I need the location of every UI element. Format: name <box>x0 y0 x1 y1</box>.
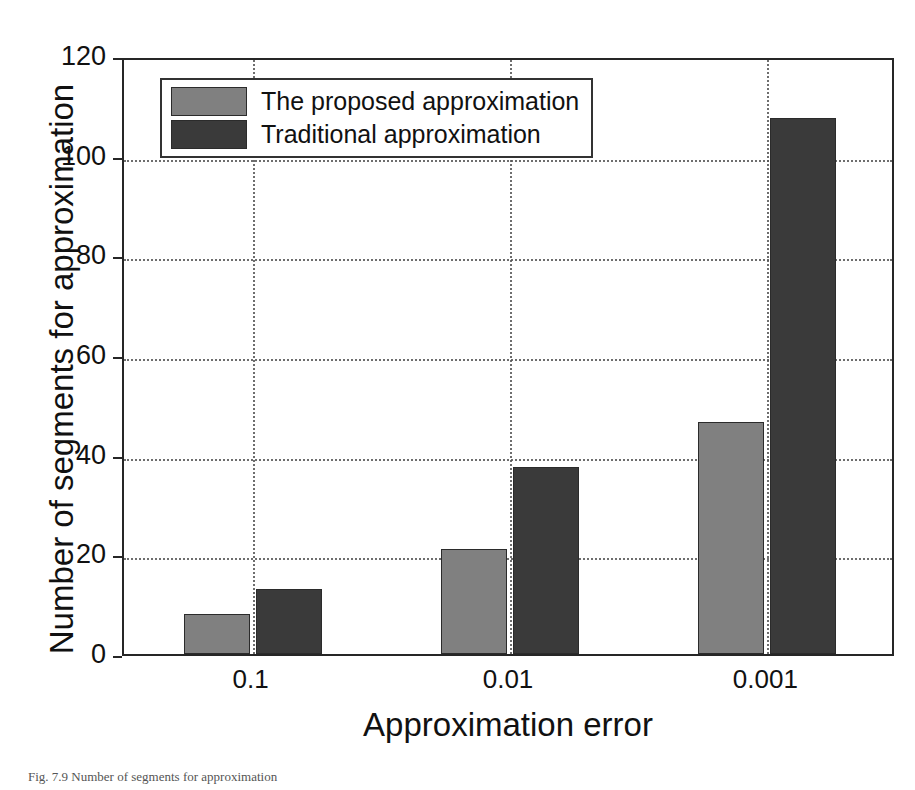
legend-swatch-proposed <box>171 87 247 116</box>
x-tick-label-0.01: 0.01 <box>483 664 534 695</box>
bar-traditional-0.01 <box>513 467 579 654</box>
bar-proposed-0.1 <box>184 614 250 654</box>
x-tick-label-0.001: 0.001 <box>733 664 798 695</box>
legend-swatch-traditional <box>171 120 247 149</box>
y-tick-mark-20 <box>113 556 122 558</box>
bar-proposed-0.001 <box>698 422 764 654</box>
bar-traditional-0.1 <box>256 589 322 654</box>
y-tick-mark-120 <box>113 58 122 60</box>
figure-caption: Fig. 7.9 Number of segments for approxim… <box>28 770 888 788</box>
y-tick-mark-60 <box>113 357 122 359</box>
x-tick-label-0.1: 0.1 <box>233 664 269 695</box>
y-tick-mark-0 <box>113 656 122 658</box>
x-axis-title: Approximation error <box>122 706 894 744</box>
legend-entry-traditional: Traditional approximation <box>171 120 579 149</box>
y-tick-mark-100 <box>113 158 122 160</box>
y-tick-mark-80 <box>113 257 122 259</box>
legend-label-traditional: Traditional approximation <box>261 122 541 147</box>
bar-traditional-0.001 <box>770 118 836 654</box>
legend-entry-proposed: The proposed approximation <box>171 87 579 116</box>
legend: The proposed approximation Traditional a… <box>160 78 593 158</box>
plot-area: The proposed approximation Traditional a… <box>122 58 894 656</box>
y-tick-mark-40 <box>113 457 122 459</box>
bar-proposed-0.01 <box>441 549 507 654</box>
legend-label-proposed: The proposed approximation <box>261 89 579 114</box>
figure-bar-chart: Number of segments for approximation 020… <box>0 0 915 790</box>
